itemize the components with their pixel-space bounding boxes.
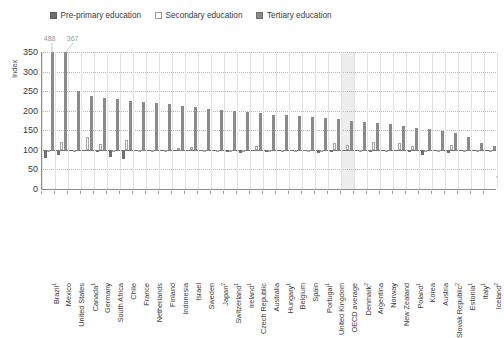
bar-pre-primary: [70, 150, 73, 151]
bar-group: [380, 52, 393, 189]
x-axis-label: Norway: [389, 283, 398, 308]
bar-pre-primary: [369, 150, 372, 152]
x-axis-tick: [236, 191, 237, 194]
bar-tertiary: [64, 52, 67, 150]
bar-pre-primary: [122, 150, 125, 159]
x-axis-label: Germany: [103, 283, 112, 313]
bar-group: [211, 52, 224, 189]
bar-group: [237, 52, 250, 189]
x-axis-tick: [418, 191, 419, 194]
bar-pre-primary: [343, 150, 346, 152]
bar-secondary: [229, 150, 232, 152]
bar-group: [107, 52, 120, 189]
bar-tertiary: [376, 123, 379, 150]
bar-tertiary: [454, 133, 457, 149]
x-axis-tick: [288, 191, 289, 194]
bar-secondary: [281, 150, 284, 152]
bar-secondary: [203, 150, 206, 152]
x-axis-tick: [132, 191, 133, 194]
bar-secondary: [99, 144, 102, 149]
bar-group: [328, 52, 341, 189]
bar-secondary: [60, 142, 63, 149]
bar-tertiary: [220, 110, 223, 150]
bar-tertiary: [51, 52, 54, 150]
bar-group: [458, 52, 471, 189]
bar-secondary: [320, 150, 323, 152]
bar-tertiary: [493, 146, 496, 150]
bar-group: [224, 52, 237, 189]
bar-group: [406, 52, 419, 189]
bar-group: [471, 52, 484, 189]
legend-swatch-icon-pre-primary: [50, 12, 57, 19]
annotation-label: 488: [44, 35, 56, 42]
x-axis-label: New Zealand: [402, 283, 411, 326]
y-axis-tick-label: 100: [23, 145, 38, 155]
chart-legend: Pre-primary education Secondary educatio…: [50, 11, 332, 20]
bar-secondary: [476, 150, 479, 152]
bar-group: [42, 52, 55, 189]
plot-area: 050100150200250300350: [41, 52, 496, 189]
bar-pre-primary: [148, 150, 151, 151]
x-axis-label: Finland: [168, 283, 177, 307]
bar-pre-primary: [317, 150, 320, 153]
x-axis-label: Indonesia: [181, 283, 190, 315]
annotation-label: 367: [67, 35, 79, 42]
bar-group: [185, 52, 198, 189]
x-axis-label: Argentina: [376, 283, 385, 314]
bar-group: [445, 52, 458, 189]
bar-group: [432, 52, 445, 189]
y-axis-tick-label: 300: [23, 67, 38, 77]
bar-group: [55, 52, 68, 189]
bar-tertiary: [337, 119, 340, 150]
x-axis-label: Czech Republic: [259, 283, 268, 334]
bar-pre-primary: [135, 150, 138, 151]
bar-tertiary: [311, 117, 314, 149]
x-axis-label: Japan2: [220, 283, 230, 306]
bar-secondary: [294, 150, 297, 152]
legend-label-pre-primary: Pre-primary education: [61, 11, 142, 20]
x-axis-tick: [80, 191, 81, 194]
x-axis-label: Belgium: [298, 283, 307, 309]
x-axis-tick: [145, 191, 146, 194]
bar-pre-primary: [473, 150, 476, 151]
bar-secondary: [411, 146, 414, 150]
bar-secondary: [125, 140, 128, 149]
x-axis-label: Ireland1: [246, 283, 256, 308]
stray-mark-icon: [496, 176, 498, 178]
bar-pre-primary: [57, 150, 60, 155]
x-axis-label: Italy1: [480, 283, 490, 299]
bar-secondary: [398, 143, 401, 150]
x-axis-tick: [249, 191, 250, 194]
bar-pre-primary: [109, 150, 112, 157]
bar-pre-primary: [161, 150, 164, 151]
bar-pre-primary: [83, 150, 86, 151]
bar-pre-primary: [304, 150, 307, 151]
x-axis-label: Hungary1: [285, 283, 295, 313]
bar-tertiary: [285, 115, 288, 149]
x-axis-tick: [223, 191, 224, 194]
x-axis-tick: [379, 191, 380, 194]
x-axis-label: Denmark2: [363, 283, 373, 315]
bar-tertiary: [441, 131, 444, 150]
x-axis-tick: [197, 191, 198, 194]
bar-tertiary: [181, 106, 184, 150]
x-axis-tick: [366, 191, 367, 194]
bar-tertiary: [389, 124, 392, 149]
x-axis-label: Netherlands: [155, 283, 164, 322]
x-axis-tick: [470, 191, 471, 194]
x-axis-labels: Brazil1MexicoUnited StatesCanada1Germany…: [41, 191, 496, 286]
bar-tertiary: [259, 113, 262, 149]
x-axis-tick: [353, 191, 354, 194]
bar-tertiary: [129, 101, 132, 150]
x-axis-label: OECD average: [350, 283, 359, 332]
x-axis-tick: [327, 191, 328, 194]
x-axis-label: South Africa: [116, 283, 125, 322]
bar-secondary: [190, 147, 193, 150]
y-axis-tick-label: 150: [23, 125, 38, 135]
x-axis-label: Israel: [194, 283, 203, 301]
x-axis-label: Spain: [311, 283, 320, 302]
bar-secondary: [177, 148, 180, 150]
bar-pre-primary: [174, 150, 177, 152]
bar-tertiary: [363, 122, 366, 150]
